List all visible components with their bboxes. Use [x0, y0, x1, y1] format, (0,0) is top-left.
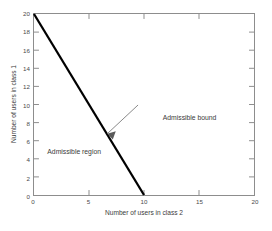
annotation-admissible-bound: Admissible bound: [163, 114, 217, 121]
x-tick-label-0: 0: [31, 198, 34, 205]
y-tick-label-4: 4: [27, 156, 30, 163]
y-tick-label-20: 20: [23, 10, 30, 17]
y-tick-label-14: 14: [23, 64, 30, 71]
y-tick-label-10: 10: [23, 101, 30, 108]
x-tick-label-5: 5: [87, 198, 90, 205]
admissible-bound-arrow: [107, 105, 138, 140]
annotation-admissible-region: Admissible region: [47, 148, 101, 155]
y-tick-label-16: 16: [23, 46, 30, 53]
y-tick-label-2: 2: [27, 174, 30, 181]
x-tick-label-20: 20: [252, 198, 259, 205]
x-axis-ticks-top: [89, 14, 199, 19]
x-tick-label-15: 15: [196, 198, 203, 205]
y-tick-label-8: 8: [27, 119, 30, 126]
y-axis-label: Number of users in class 1: [10, 13, 20, 196]
y-tick-label-12: 12: [23, 83, 30, 90]
plot-svg: [34, 14, 254, 195]
y-tick-label-0: 0: [27, 193, 30, 200]
y-tick-label-18: 18: [23, 28, 30, 35]
x-tick-label-10: 10: [141, 198, 148, 205]
figure-canvas: Number of users in class 1 0 2 4 6 8 10 …: [0, 0, 272, 231]
y-axis-ticks: [34, 32, 39, 177]
plot-area: Admissible bound Admissible region: [33, 13, 255, 196]
x-axis-label: Number of users in class 2: [33, 209, 255, 216]
y-tick-label-6: 6: [27, 138, 30, 145]
admissible-bound-line: [34, 14, 144, 195]
y-axis-ticks-right: [249, 32, 254, 177]
